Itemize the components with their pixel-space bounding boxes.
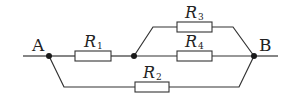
node-b-dot	[251, 53, 257, 59]
wire-r3-branch-left	[134, 27, 177, 56]
resistor-r1	[75, 51, 111, 61]
node-middle-dot	[131, 53, 137, 59]
wire-r3-branch-right	[212, 27, 254, 56]
resistor-r4	[177, 51, 212, 61]
node-b-label: B	[259, 35, 272, 55]
resistor-r2	[135, 82, 169, 92]
r4-label: R4	[184, 32, 204, 51]
node-a-label: A	[31, 35, 45, 55]
resistor-r3	[177, 22, 212, 32]
r1-label: R1	[83, 32, 103, 51]
circuit-diagram: A B R1 R3 R4 R2	[0, 0, 303, 103]
r2-label: R2	[142, 63, 162, 82]
node-a-dot	[46, 53, 52, 59]
r3-label: R3	[184, 3, 204, 22]
